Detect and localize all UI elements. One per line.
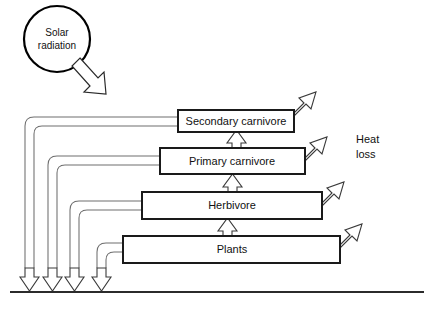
- solar-radiation-label-line2: radiation: [38, 40, 76, 51]
- trophic-box-plants[interactable]: Plants: [123, 236, 340, 263]
- heat-loss-caption: Heat loss: [356, 133, 379, 160]
- trophic-box-label-secondary-carnivore: Secondary carnivore: [186, 115, 287, 127]
- energy-transfer-arrow-icon-plants-herbivore: [218, 218, 237, 236]
- solar-radiation-label-line1: Solar: [45, 27, 69, 38]
- return-tube-plants-inner: [106, 252, 123, 268]
- energy-transfer-arrow-icon-herbivore-primary: [223, 174, 242, 192]
- diagram-canvas: Solar radiation: [0, 0, 434, 310]
- decomposer-return-arrow-icon-2: [43, 268, 62, 291]
- trophic-box-label-plants: Plants: [217, 243, 248, 255]
- trophic-box-label-primary-carnivore: Primary carnivore: [189, 155, 275, 167]
- ground-arrowheads: [20, 268, 111, 291]
- decomposer-return-arrow-icon-4: [92, 268, 111, 291]
- trophic-box-secondary-carnivore[interactable]: Secondary carnivore: [178, 110, 294, 132]
- energy-transfer-arrows: [218, 130, 246, 236]
- solar-radiation-source: Solar radiation: [24, 6, 106, 94]
- decomposer-return-arrow-icon-1: [20, 268, 39, 291]
- energy-flow-diagram: Solar radiation: [0, 0, 434, 310]
- trophic-box-primary-carnivore[interactable]: Primary carnivore: [160, 148, 305, 174]
- decomposer-return-arrow-icon-3: [65, 268, 84, 291]
- trophic-box-herbivore[interactable]: Herbivore: [142, 192, 322, 219]
- solar-input-arrow-icon: [72, 58, 106, 94]
- heat-loss-label-line1: Heat: [356, 133, 379, 145]
- heat-loss-label-line2: loss: [356, 148, 376, 160]
- trophic-box-label-herbivore: Herbivore: [208, 199, 256, 211]
- return-tube-plants-outer: [97, 243, 123, 268]
